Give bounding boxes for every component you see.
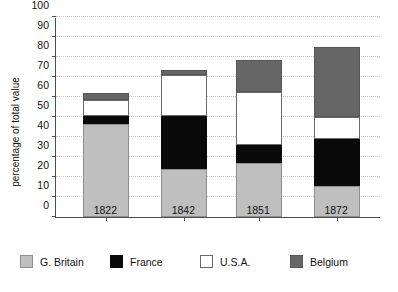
bar-group-1872[interactable] xyxy=(314,17,360,217)
x-axis-label-1842: 1842 xyxy=(143,204,223,216)
x-axis-label-1872: 1872 xyxy=(296,204,376,216)
y-axis-title-label: percentage of total value xyxy=(10,52,21,212)
legend-item-g-britain[interactable]: G. Britain xyxy=(20,255,110,268)
legend-item-belgium[interactable]: Belgium xyxy=(290,255,380,268)
bar-group-1851[interactable] xyxy=(236,17,282,217)
y-axis-title: percentage of total value xyxy=(0,0,10,52)
bars-layer xyxy=(56,18,380,217)
legend-label-usa: U.S.A. xyxy=(220,256,250,268)
swatch-france xyxy=(110,255,123,268)
swatch-usa xyxy=(200,255,213,268)
swatch-g-britain xyxy=(20,255,33,268)
y-tick-label-100: 100 xyxy=(31,0,49,11)
x-axis-label-1851: 1851 xyxy=(218,204,298,216)
y-tick-label-30: 30 xyxy=(37,139,49,151)
bar-segment-1851-belgium[interactable] xyxy=(236,60,282,92)
bar-segment-1851-usa[interactable] xyxy=(236,92,282,145)
bar-stack-1822 xyxy=(83,17,129,217)
legend-item-france[interactable]: France xyxy=(110,255,200,268)
y-tick-label-80: 80 xyxy=(37,39,49,51)
bar-group-1822[interactable] xyxy=(83,17,129,217)
bar-stack-1872 xyxy=(314,17,360,217)
bar-stack-1842 xyxy=(161,17,207,217)
chart-legend: G. BritainFranceU.S.A.Belgium xyxy=(20,255,380,268)
y-tick-label-20: 20 xyxy=(37,159,49,171)
legend-item-usa[interactable]: U.S.A. xyxy=(200,255,290,268)
y-tick-label-40: 40 xyxy=(37,119,49,131)
bar-segment-1822-belgium[interactable] xyxy=(83,93,129,100)
plot-area: 0102030405060708090100 xyxy=(55,18,380,218)
x-tick-1872 xyxy=(337,217,338,221)
legend-label-g-britain: G. Britain xyxy=(40,256,84,268)
bar-segment-1822-france[interactable] xyxy=(83,116,129,124)
bar-stack-1851 xyxy=(236,17,282,217)
legend-label-belgium: Belgium xyxy=(310,256,348,268)
x-axis-label-1822: 1822 xyxy=(65,204,145,216)
x-tick-1851 xyxy=(259,217,260,221)
y-tick-100 xyxy=(52,16,56,17)
swatch-belgium xyxy=(290,255,303,268)
y-tick-label-0: 0 xyxy=(43,199,49,211)
bar-segment-1842-usa[interactable] xyxy=(161,75,207,116)
bar-segment-1872-france[interactable] xyxy=(314,139,360,186)
bar-segment-1872-usa[interactable] xyxy=(314,117,360,139)
chart-root: percentage of total value 01020304050607… xyxy=(0,0,398,292)
y-tick-label-70: 70 xyxy=(37,59,49,71)
bar-segment-1872-belgium[interactable] xyxy=(314,47,360,117)
y-tick-label-90: 90 xyxy=(37,19,49,31)
x-tick-1842 xyxy=(184,217,185,221)
bar-segment-1842-belgium[interactable] xyxy=(161,70,207,75)
y-tick-label-10: 10 xyxy=(37,179,49,191)
y-tick-label-50: 50 xyxy=(37,99,49,111)
bar-segment-1851-france[interactable] xyxy=(236,145,282,163)
bar-segment-1842-france[interactable] xyxy=(161,116,207,169)
y-tick-label-60: 60 xyxy=(37,79,49,91)
x-tick-1822 xyxy=(106,217,107,221)
legend-label-france: France xyxy=(130,256,163,268)
bar-group-1842[interactable] xyxy=(161,17,207,217)
bar-segment-1822-usa[interactable] xyxy=(83,100,129,116)
